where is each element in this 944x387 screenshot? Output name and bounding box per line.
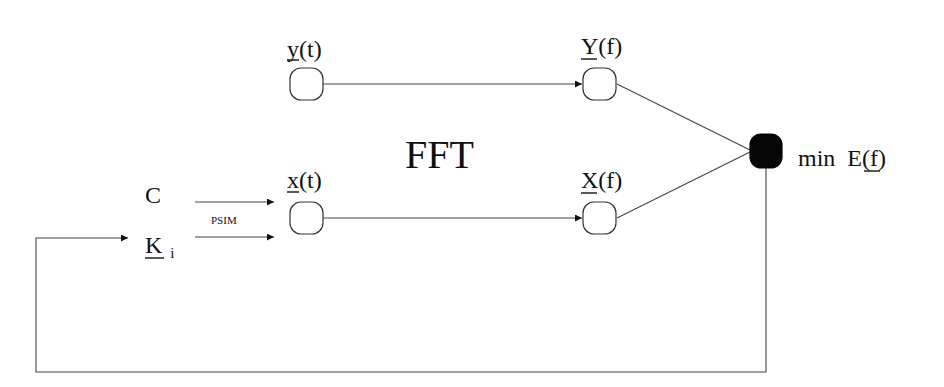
fft-title: FFT <box>405 132 474 177</box>
label-x-t: x(t) <box>287 167 322 193</box>
label-C: C <box>145 182 161 208</box>
label-min-E-f: minE(f) <box>798 145 886 171</box>
label-X-f: X(f) <box>581 167 622 193</box>
node-x-t <box>290 202 323 234</box>
label-K-i: Ki <box>145 232 175 261</box>
label-y-t: y(t) <box>287 36 322 62</box>
node-E-f <box>750 134 782 168</box>
edge-Y-to-E <box>617 84 750 150</box>
label-Y-f: Y(f) <box>581 33 622 59</box>
node-X-f <box>583 202 616 234</box>
node-y-t <box>290 68 323 100</box>
fft-optimization-diagram: y(t) Y(f) x(t) X(f) minE(f) FFT C Ki PSI… <box>0 0 944 387</box>
label-psim: PSIM <box>211 214 237 226</box>
edge-X-to-E <box>617 152 750 218</box>
node-Y-f <box>583 68 616 100</box>
